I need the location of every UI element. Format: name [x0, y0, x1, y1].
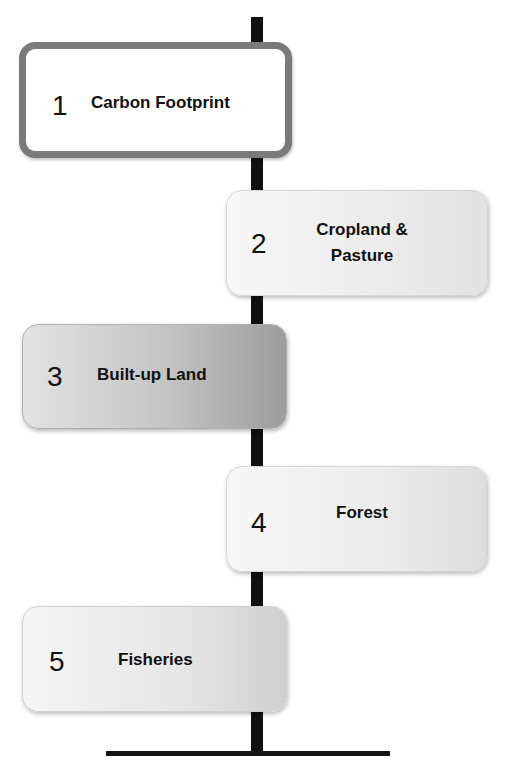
step-label: Carbon Footprint [91, 90, 230, 116]
step-box-forest: 4 Forest [226, 466, 487, 572]
step-label: Built-up Land [97, 362, 207, 388]
step-box-built-up-land: 3 Built-up Land [22, 324, 287, 429]
step-number: 1 [52, 92, 68, 120]
step-box-cropland-pasture: 2 Cropland & Pasture [226, 190, 488, 296]
step-label: Forest [336, 500, 388, 526]
step-number: 3 [47, 363, 63, 391]
step-box-carbon-footprint: 1 Carbon Footprint [19, 42, 292, 158]
step-box-fisheries: 5 Fisheries [22, 606, 287, 712]
timeline-baseline [106, 751, 390, 756]
step-label: Cropland & Pasture [307, 217, 417, 268]
step-label: Fisheries [118, 647, 193, 673]
step-number: 5 [49, 648, 65, 676]
step-number: 2 [251, 230, 267, 258]
step-number: 4 [251, 509, 267, 537]
